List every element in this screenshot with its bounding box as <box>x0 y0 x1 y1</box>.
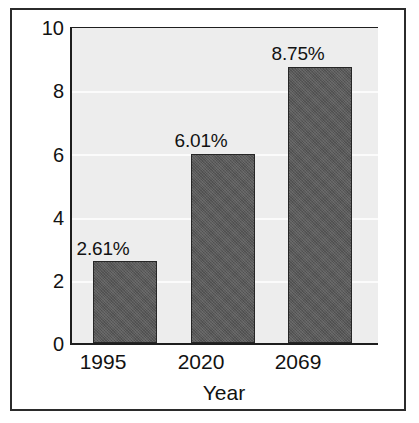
y-tick-8: 8 <box>6 81 64 101</box>
x-tick-2020: 2020 <box>159 350 243 374</box>
bar-value-2069: 8.75% <box>266 43 330 65</box>
y-tick-0: 0 <box>6 334 64 354</box>
bar-2020[interactable] <box>191 154 255 343</box>
bar-value-2020: 6.01% <box>169 130 233 152</box>
x-tick-1995: 1995 <box>61 350 145 374</box>
y-axis-tick-labels: 10 8 6 4 2 0 <box>0 0 64 423</box>
bar-2069[interactable] <box>288 67 352 343</box>
bar-value-1995: 2.61% <box>71 238 135 260</box>
x-axis-title: Year <box>70 381 378 405</box>
plot-area <box>70 28 378 345</box>
y-tick-10: 10 <box>6 18 64 38</box>
y-tick-4: 4 <box>6 208 64 228</box>
bar-chart-figure: 10 8 6 4 2 0 2.61% 6.01% 8.75% 1995 2020… <box>0 0 419 423</box>
x-tick-2069: 2069 <box>256 350 340 374</box>
y-tick-2: 2 <box>6 271 64 291</box>
y-tick-6: 6 <box>6 145 64 165</box>
bar-1995[interactable] <box>93 261 157 343</box>
